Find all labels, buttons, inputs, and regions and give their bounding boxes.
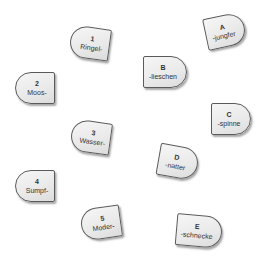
suffix-piece-d[interactable]: D -natter — [156, 143, 201, 181]
piece-number: 2 — [35, 79, 39, 88]
piece-word: -spinne — [218, 119, 241, 128]
piece-word: Sumpf- — [26, 186, 49, 195]
piece-letter: E — [195, 222, 200, 231]
piece-word: Moos- — [27, 88, 46, 97]
prefix-piece-2[interactable]: 2 Moos- — [15, 72, 55, 104]
piece-word: -schnecke — [180, 229, 213, 241]
piece-letter: C — [226, 110, 231, 119]
prefix-piece-5[interactable]: 5 Moder- — [79, 204, 123, 241]
suffix-piece-c[interactable]: C -spinne — [211, 103, 251, 135]
piece-word: Ringel- — [80, 42, 103, 54]
prefix-piece-1[interactable]: 1 Ringel- — [68, 24, 112, 61]
piece-word: -lieschen — [149, 72, 177, 81]
suffix-piece-e[interactable]: E -schnecke — [175, 213, 224, 249]
prefix-piece-3[interactable]: 3 Wasser- — [69, 118, 113, 155]
piece-word: -jungfer — [211, 29, 236, 43]
piece-word: Wasser- — [79, 135, 106, 148]
piece-letter: B — [160, 63, 165, 72]
suffix-piece-a[interactable]: A -jungfer — [202, 11, 248, 51]
prefix-piece-4[interactable]: 4 Sumpf- — [15, 170, 55, 202]
piece-word: -natter — [164, 160, 185, 172]
suffix-piece-b[interactable]: B -lieschen — [143, 56, 187, 88]
piece-word: Moder- — [92, 221, 115, 233]
piece-number: 4 — [35, 177, 39, 186]
